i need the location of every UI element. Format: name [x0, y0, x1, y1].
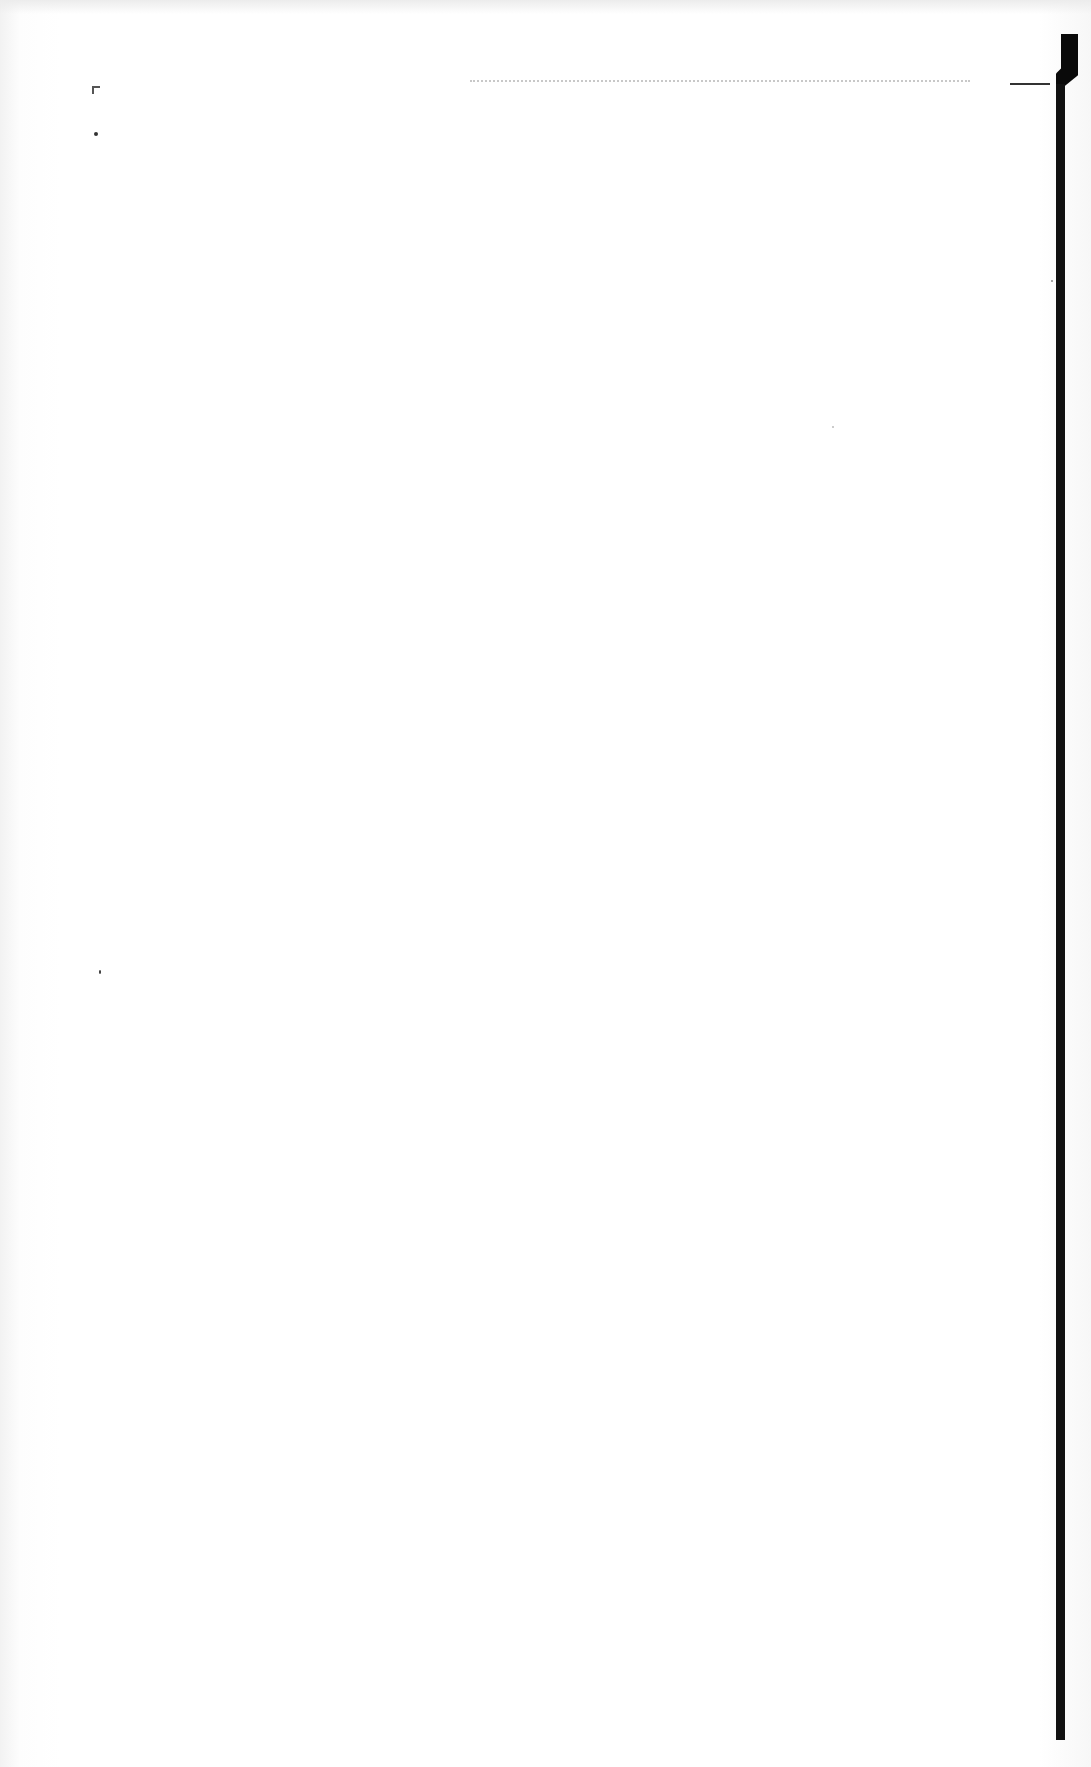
scanned-page: [0, 0, 1091, 1767]
binding-edge-bar: [1056, 84, 1065, 1740]
scan-speck: [94, 132, 98, 136]
header-dash-mark: [1010, 83, 1050, 85]
scan-speck: [99, 970, 101, 974]
dotted-header-rule: [470, 80, 970, 82]
corner-crop-mark: [92, 86, 100, 94]
scan-top-shadow: [0, 0, 1091, 14]
scan-speck: [832, 426, 834, 428]
binding-edge-top: [1061, 34, 1078, 72]
scan-speck: [1051, 280, 1053, 282]
